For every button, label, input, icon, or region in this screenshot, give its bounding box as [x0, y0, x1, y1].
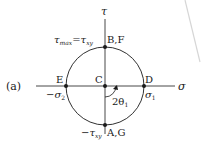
point-e — [64, 84, 68, 88]
angle-label: 2θ1 — [112, 96, 128, 108]
label-e: E — [56, 74, 63, 85]
sigma1-subscript: 1 — [152, 94, 156, 101]
sigma2-label: −σ2 — [46, 89, 65, 101]
label-bf: B,F — [107, 34, 125, 45]
angle-symbol: 2θ — [112, 96, 124, 107]
tau-xy-subscript: xy — [86, 39, 93, 47]
sigma-axis-label: σ — [178, 80, 186, 93]
sigma1-label: σ1 — [145, 89, 156, 101]
tau-max-subscript: max — [60, 39, 73, 46]
equals-sign: = — [72, 34, 80, 45]
neg-tau-xy-label: −τxy — [81, 127, 102, 140]
sigma2-subscript: 2 — [61, 94, 65, 101]
tau-axis-label: τ — [101, 5, 108, 18]
figure-label: (a) — [6, 80, 21, 93]
neg-tau-xy-subscript: xy — [95, 132, 102, 140]
sigma2-symbol: −σ — [46, 89, 62, 100]
point-c — [103, 84, 107, 88]
label-ag: A,G — [106, 127, 125, 138]
point-bf — [103, 45, 107, 49]
angle-subscript: 1 — [124, 101, 128, 108]
tau-max-label: τmax=τxy — [54, 34, 94, 47]
label-d: D — [145, 74, 153, 85]
mohr-circle-diagram: τ σ (a) C D E B,F A,G τmax=τxy σ1 −σ2 −τ… — [0, 0, 209, 149]
label-c: C — [95, 74, 103, 85]
neg-tau-xy-symbol: −τ — [81, 127, 95, 138]
faint-mark — [185, 0, 200, 62]
